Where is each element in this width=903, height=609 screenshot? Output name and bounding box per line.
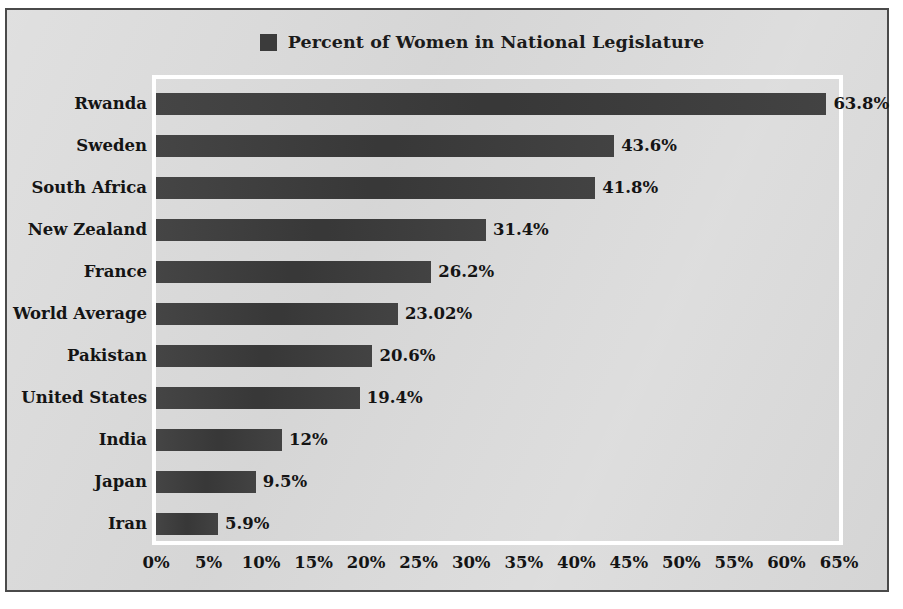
category-label: Rwanda [74, 96, 147, 113]
bar-value-label: 41.8% [602, 180, 658, 197]
bar [156, 135, 614, 157]
bar-value-label: 20.6% [379, 348, 435, 365]
category-label: Iran [108, 516, 147, 533]
bar-value-label: 9.5% [263, 474, 307, 491]
bar-value-label: 23.02% [405, 306, 472, 323]
chart-legend: Percent of Women in National Legislature [7, 32, 887, 52]
category-label: Pakistan [67, 348, 147, 365]
x-tick-label: 60% [767, 555, 806, 572]
bar-row: India12% [156, 419, 839, 461]
category-label: World Average [13, 306, 147, 323]
x-tick-label: 20% [347, 555, 386, 572]
x-axis-tick-labels: 0%5%10%15%20%25%30%35%40%45%50%55%60%65% [152, 555, 843, 579]
x-tick-label: 10% [242, 555, 281, 572]
bar-value-label: 5.9% [225, 516, 269, 533]
category-label: India [99, 432, 147, 449]
x-tick-label: 30% [452, 555, 491, 572]
chart-frame: Percent of Women in National Legislature… [5, 8, 889, 592]
bar-value-label: 12% [289, 432, 328, 449]
bar-row: United States19.4% [156, 377, 839, 419]
category-label: France [84, 264, 147, 281]
bar [156, 471, 256, 493]
bar-row: Iran5.9% [156, 503, 839, 545]
bar-row: Pakistan20.6% [156, 335, 839, 377]
category-label: New Zealand [28, 222, 147, 239]
bar [156, 93, 826, 115]
bar-value-label: 43.6% [621, 138, 677, 155]
bar-row: Japan9.5% [156, 461, 839, 503]
x-tick-label: 25% [399, 555, 438, 572]
x-tick-label: 35% [504, 555, 543, 572]
category-label: Sweden [76, 138, 147, 155]
x-tick-label: 55% [715, 555, 754, 572]
x-tick-label: 65% [820, 555, 859, 572]
category-label: South Africa [31, 180, 147, 197]
bar [156, 513, 218, 535]
bar-row: Sweden43.6% [156, 125, 839, 167]
x-tick-label: 5% [195, 555, 222, 572]
bar-row: Rwanda63.8% [156, 83, 839, 125]
x-tick-label: 15% [294, 555, 333, 572]
bar [156, 429, 282, 451]
bar [156, 219, 486, 241]
bar-value-label: 26.2% [438, 264, 494, 281]
bar [156, 261, 431, 283]
bar-value-label: 31.4% [493, 222, 549, 239]
bar-row: New Zealand31.4% [156, 209, 839, 251]
x-tick-label: 0% [142, 555, 169, 572]
bar-value-label: 19.4% [367, 390, 423, 407]
bar-row: World Average23.02% [156, 293, 839, 335]
bar [156, 345, 372, 367]
category-label: United States [21, 390, 147, 407]
x-tick-label: 50% [662, 555, 701, 572]
legend-label: Percent of Women in National Legislature [288, 32, 705, 52]
legend-color-swatch [260, 34, 277, 51]
bar [156, 303, 398, 325]
x-tick-label: 45% [610, 555, 649, 572]
category-label: Japan [94, 474, 147, 491]
bar-row: South Africa41.8% [156, 167, 839, 209]
x-tick-label: 40% [557, 555, 596, 572]
bar [156, 387, 360, 409]
bar [156, 177, 595, 199]
plot-area: Rwanda63.8%Sweden43.6%South Africa41.8%N… [152, 75, 843, 545]
bar-row: France26.2% [156, 251, 839, 293]
bar-value-label: 63.8% [833, 96, 889, 113]
